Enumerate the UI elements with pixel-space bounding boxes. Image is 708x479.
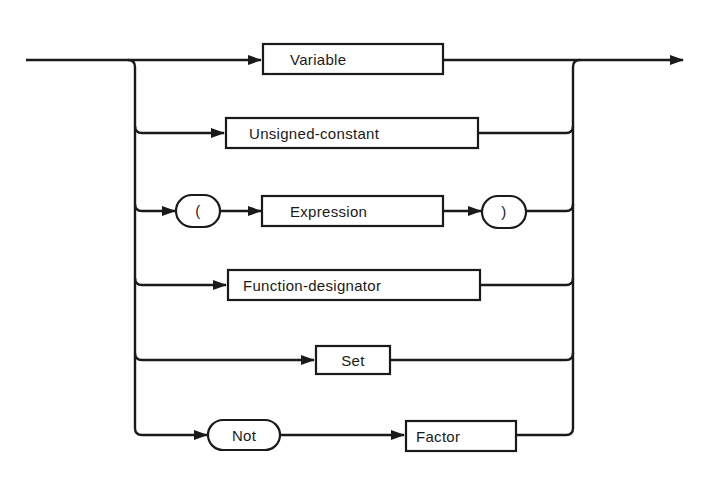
right-rail [566,60,580,435]
label-close-paren: ) [501,203,506,220]
label-open-paren: ( [195,202,200,219]
syntax-diagram: Variable Unsigned-constant ( Expression … [0,0,708,479]
label-variable: Variable [290,51,346,68]
alt-not-factor: Not Factor [142,420,566,451]
label-not: Not [232,427,257,444]
label-factor: Factor [416,428,460,445]
label-function-designator: Function-designator [243,277,381,294]
label-set: Set [341,352,365,369]
alt-unsigned-constant: Unsigned-constant [142,118,566,148]
alt-function-designator: Function-designator [142,270,566,300]
alt-variable: Variable [263,44,443,74]
label-expression: Expression [290,203,367,220]
left-rail [128,60,142,435]
alt-set: Set [142,346,566,374]
label-unsigned-constant: Unsigned-constant [249,125,380,142]
alt-parenthesized: ( Expression ) [142,195,566,228]
